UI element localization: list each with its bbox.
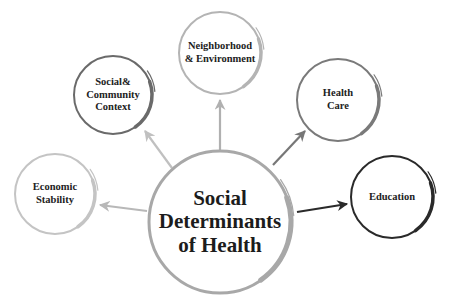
node-neighborhood-label: Neighborhood & Environment (179, 12, 261, 94)
arrow-to-economic (100, 205, 147, 211)
arrow-to-education (297, 204, 347, 212)
node-education-label: Education (351, 156, 433, 238)
diagram-canvas: Social Determinants of HealthEconomic St… (0, 0, 450, 304)
center-label: Social Determinants of Health (149, 151, 291, 293)
node-social-label: Social& Community Context (74, 56, 152, 134)
node-economic-label: Economic Stability (15, 154, 95, 234)
node-healthcare-label: Health Care (297, 59, 379, 141)
